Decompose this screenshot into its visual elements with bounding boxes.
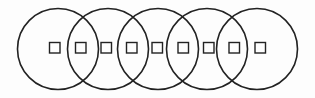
square-3: [101, 43, 112, 54]
square-8: [229, 43, 240, 54]
square-9: [255, 43, 266, 54]
square-5: [152, 43, 163, 54]
square-7: [204, 43, 215, 54]
square-2: [76, 43, 87, 54]
square-1: [50, 43, 61, 54]
venn-chain-diagram: [0, 0, 315, 98]
square-6: [178, 43, 189, 54]
diagram-canvas: [0, 0, 315, 98]
square-4: [127, 43, 138, 54]
circle-3: [118, 9, 199, 90]
